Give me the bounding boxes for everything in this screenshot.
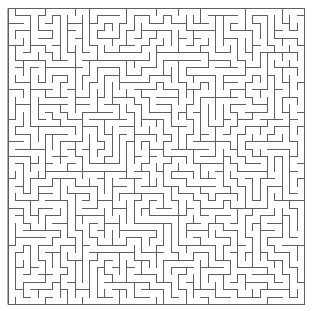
maze-canvas (0, 0, 313, 311)
maze-figure (0, 0, 313, 311)
